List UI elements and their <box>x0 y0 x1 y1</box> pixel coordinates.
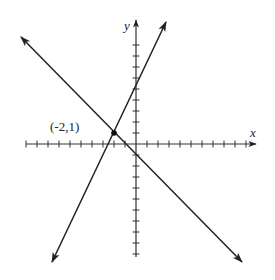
intersection-label: (-2,1) <box>50 119 79 134</box>
x-axis <box>26 141 256 148</box>
intersection-point <box>111 130 117 136</box>
y-axis <box>133 20 140 257</box>
x-axis-label: x <box>249 125 256 140</box>
coordinate-graph: x y (-2,1) <box>0 0 275 280</box>
line-positive-slope <box>52 22 166 262</box>
y-axis-label: y <box>122 18 130 33</box>
line-negative-slope <box>21 37 242 262</box>
